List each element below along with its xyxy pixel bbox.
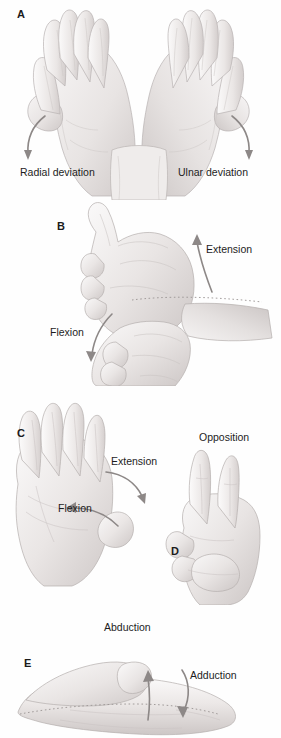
label-thumb-adduction: Adduction <box>190 670 237 681</box>
label-thumb-opposition: Opposition <box>199 432 249 443</box>
panel-d-illustration <box>160 440 281 605</box>
panel-b-letter: B <box>57 221 65 232</box>
ulnar-deviation-arrow-path <box>232 116 249 154</box>
neutral-axis-dotted-line <box>132 297 262 302</box>
panel-c-letter: C <box>17 428 25 439</box>
flexion-arrow-path <box>92 314 112 354</box>
label-ulnar-deviation: Ulnar deviation <box>178 167 248 178</box>
label-wrist-extension: Extension <box>206 244 252 255</box>
panel-c-illustration <box>0 400 175 590</box>
panel-d-letter: D <box>171 546 179 557</box>
panel-e-letter: E <box>24 658 32 669</box>
panel-a-letter: A <box>17 9 25 20</box>
hand-movements-figure: A Radial deviation Ulnar deviation <box>0 0 281 738</box>
thumb-extension-arrow-path <box>106 472 142 496</box>
label-thumb-abduction: Abduction <box>104 622 151 633</box>
abduction-arrow-path <box>148 678 150 720</box>
label-thumb-flexion: Flexion <box>58 503 92 514</box>
label-radial-deviation: Radial deviation <box>20 167 95 178</box>
label-thumb-extension: Extension <box>111 456 157 467</box>
radial-deviation-arrow-path <box>28 116 45 154</box>
panel-b-illustration <box>0 196 281 386</box>
adduction-arrow-path <box>182 670 188 710</box>
label-wrist-flexion: Flexion <box>50 327 84 338</box>
adducted-reference-dotted-line <box>20 704 218 714</box>
